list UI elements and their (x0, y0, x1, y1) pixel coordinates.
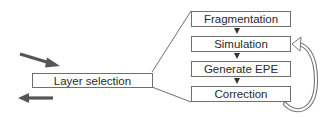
step-generate-epe: Generate EPE (191, 61, 291, 77)
down-arrow-icon (234, 53, 240, 59)
layer-selection-box: Layer selection (32, 73, 153, 88)
step-correction: Correction (191, 86, 291, 102)
down-arrow-icon (234, 28, 240, 34)
step-fragmentation: Fragmentation (191, 11, 291, 27)
expand-line-top (152, 11, 191, 72)
output-arrow-icon (18, 93, 53, 103)
expand-line-bottom (152, 87, 191, 102)
step-simulation: Simulation (191, 36, 291, 52)
layer-selection-label: Layer selection (54, 75, 131, 87)
input-arrow-icon (20, 54, 60, 68)
step-label: Correction (214, 88, 267, 100)
step-label: Generate EPE (204, 63, 278, 75)
down-arrow-icon (234, 78, 240, 84)
step-label: Simulation (214, 38, 268, 50)
step-label: Fragmentation (204, 13, 278, 25)
